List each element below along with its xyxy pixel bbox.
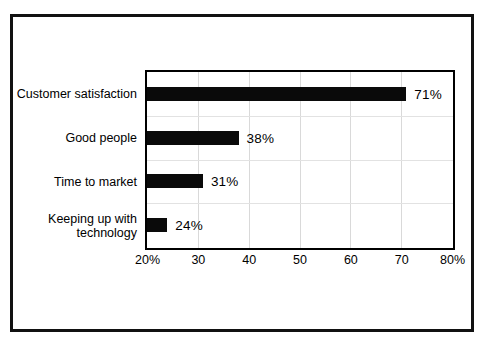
bar-value-label-3: 31% xyxy=(211,174,239,189)
x-tick-label-80: 80% xyxy=(440,253,465,267)
bar-row: 31% xyxy=(147,160,453,204)
category-label-good-people: Good people xyxy=(5,131,137,145)
bar-row: 38% xyxy=(147,116,453,160)
bar-value-label-2: 38% xyxy=(247,130,275,145)
bar-value-label-4: 24% xyxy=(175,218,203,233)
bar-3 xyxy=(147,174,203,188)
category-label-keeping-up-with-technology: Keeping up with technology xyxy=(5,212,137,240)
category-label-time-to-market: Time to market xyxy=(5,175,137,189)
bar-1 xyxy=(147,87,406,101)
bar-row: 24% xyxy=(147,203,453,247)
bar-2 xyxy=(147,131,239,145)
category-label-customer-satisfaction: Customer satisfaction xyxy=(5,87,137,101)
bar-row: 71% xyxy=(147,72,453,116)
x-tick-label-30: 30 xyxy=(191,253,205,267)
x-tick-label-70: 70 xyxy=(395,253,409,267)
plot-inner: 71%38%31%24% xyxy=(147,72,453,248)
plot-area: 71%38%31%24% xyxy=(145,70,455,250)
x-tick-label-40: 40 xyxy=(242,253,256,267)
x-tick-label-60: 60 xyxy=(344,253,358,267)
x-tick-label-20: 20% xyxy=(135,253,160,267)
bar-value-label-1: 71% xyxy=(414,86,442,101)
bar-4 xyxy=(147,218,167,232)
x-tick-label-50: 50 xyxy=(293,253,307,267)
horizontal-bar-chart: Customer satisfaction Good people Time t… xyxy=(0,0,487,343)
